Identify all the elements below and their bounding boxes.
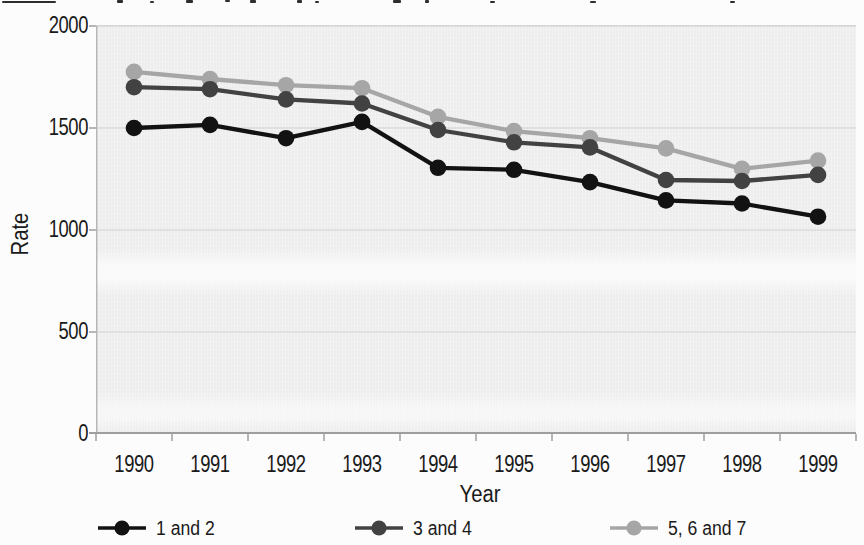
scanned-line-chart-figure: Rate 2000 1500 1000 500 0 1990 1991 1992…: [0, 0, 864, 545]
plot-svg: [96, 26, 856, 434]
cropped-caption-fragment: [150, 1, 154, 3]
legend-marker: [609, 518, 659, 538]
cropped-caption-fragment: [250, 0, 256, 3]
y-tick-label: 0: [32, 421, 88, 445]
legend-label: 1 and 2: [156, 514, 215, 542]
x-tick-label: 1994: [412, 452, 463, 476]
cropped-caption-fragment: [425, 0, 429, 3]
x-tick-label: 1992: [260, 452, 311, 476]
x-tick-label: 1991: [184, 452, 235, 476]
y-tick-label: 500: [32, 319, 88, 343]
x-tick-label: 1997: [640, 452, 691, 476]
cropped-caption-fragment: [730, 1, 735, 3]
y-axis-title: Rate: [8, 199, 32, 269]
y-tick-label: 1000: [32, 217, 88, 241]
y-tick-label: 2000: [32, 13, 88, 37]
cropped-caption-fragment: [117, 0, 123, 3]
cropped-caption-fragment: [490, 1, 495, 3]
cropped-caption-fragment: [315, 1, 319, 3]
legend-label: 3 and 4: [413, 514, 472, 542]
x-tick-label: 1998: [716, 452, 767, 476]
legend-marker: [354, 518, 404, 538]
x-axis-title: Year: [443, 482, 517, 506]
x-tick-label: 1996: [564, 452, 615, 476]
x-tick-label: 1993: [336, 452, 387, 476]
y-tick-label: 1500: [32, 115, 88, 139]
legend-item: 3 and 4: [354, 514, 480, 542]
legend-label: 5, 6 and 7: [668, 514, 746, 542]
cropped-caption-fragment: [393, 0, 401, 3]
cropped-caption-fragment: [590, 1, 596, 3]
cropped-caption-fragment: [297, 0, 302, 3]
legend-marker: [97, 518, 147, 538]
cropped-caption-fragment: [225, 0, 230, 2]
plot-area: [96, 25, 856, 434]
legend-item: 1 and 2: [97, 514, 223, 542]
cropped-caption-fragment: [186, 0, 193, 3]
x-tick-label: 1999: [792, 452, 843, 476]
cropped-caption-fragment: [2, 1, 56, 3]
x-tick-label: 1990: [108, 452, 159, 476]
legend-item: 5, 6 and 7: [609, 514, 757, 542]
x-tick-label: 1995: [488, 452, 539, 476]
